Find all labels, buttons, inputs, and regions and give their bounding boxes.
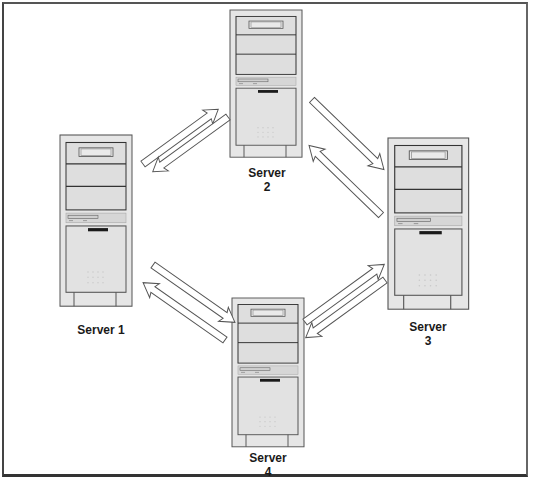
arrow-server2-to-server1	[148, 110, 233, 178]
server-4-label-line2: 4	[228, 465, 308, 479]
arrow-server3-to-server4	[301, 273, 390, 344]
server-3-label-line1: Server	[388, 320, 468, 334]
server-1-label-line1: Server 1	[61, 323, 141, 337]
arrow-server1-to-server2	[138, 102, 223, 170]
server-4-label: Server 4	[228, 451, 308, 479]
server-4-tower	[232, 298, 304, 447]
arrow-server4-to-server3	[300, 258, 389, 329]
server-3-label: Server 3	[388, 320, 468, 348]
arrow-server2-to-server3	[306, 94, 390, 176]
server-2-label-line2: 2	[227, 180, 307, 194]
server-3-tower	[388, 138, 469, 309]
server-2-tower	[230, 10, 302, 157]
server-2-label-line1: Server	[227, 166, 307, 180]
server-3-label-line2: 3	[388, 334, 468, 348]
server-4-label-line1: Server	[228, 451, 308, 465]
server-1-label: Server 1	[61, 323, 141, 337]
arrow-server3-to-server2	[303, 139, 387, 221]
network-diagram	[0, 0, 533, 484]
server-1-tower	[60, 135, 132, 306]
server-2-label: Server 2	[227, 166, 307, 194]
